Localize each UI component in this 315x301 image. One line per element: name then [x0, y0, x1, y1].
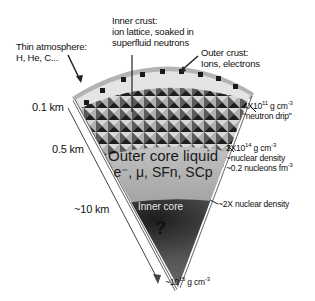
depth-arrow-head [153, 274, 161, 284]
center-density-label: ~1015 g cm-3 [165, 277, 210, 287]
depth-label-0-1km: 0.1 km [32, 102, 64, 113]
inner-core-label: Inner core [138, 201, 183, 212]
outer-crust-pointer [182, 56, 198, 70]
depth-label-10km: ~10 km [74, 204, 109, 215]
inner-crust-label: Inner crust: ion lattice, soaked in supe… [112, 15, 194, 48]
atmosphere-label: Thin atmosphere: H, He, C... [16, 41, 87, 63]
inner-core-boundary-density: ~2X nuclear density [218, 199, 289, 209]
nuclear-density-label: 2X1014 g cm-3 ~nuclear density ~0.2 nucl… [226, 143, 293, 173]
inner-core-question-mark: ? [155, 218, 166, 239]
outer-crust-label: Outer crust: Ions, electrons [201, 47, 260, 69]
outer-core-label: Outer core liquid e⁻, μ, SFn, SCp [108, 148, 218, 180]
neutron-drip-density: 4X1011 g cm-3 "neutron drip" [243, 101, 293, 121]
depth-label-0-5km: 0.5 km [52, 144, 84, 155]
